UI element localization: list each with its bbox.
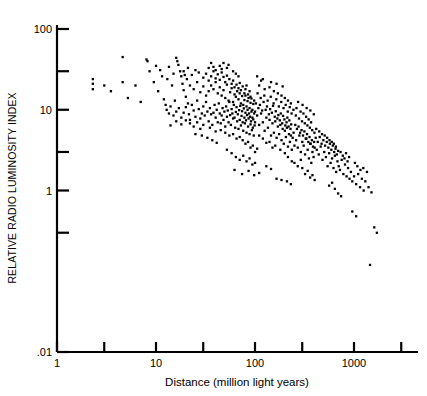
data-point (328, 185, 330, 187)
data-point (283, 118, 285, 120)
data-point (328, 152, 330, 154)
data-point (213, 104, 215, 106)
data-point (277, 92, 279, 94)
data-point (245, 132, 247, 134)
data-point (354, 162, 356, 164)
data-point (248, 107, 250, 109)
data-point (290, 102, 292, 104)
data-point (306, 133, 308, 135)
data-point (230, 87, 232, 89)
data-point (224, 125, 226, 127)
data-point (297, 146, 299, 148)
data-point (275, 83, 277, 85)
data-point (241, 95, 243, 97)
data-point (253, 134, 255, 136)
data-point (193, 109, 195, 111)
data-point (279, 149, 281, 151)
data-point (240, 124, 242, 126)
data-point (235, 111, 237, 113)
x-tick-label: 10 (150, 357, 162, 369)
data-point (239, 136, 241, 138)
data-point (343, 157, 345, 159)
data-point (210, 75, 212, 77)
data-point (251, 163, 253, 165)
data-point (227, 99, 229, 101)
data-point (202, 85, 204, 87)
data-point (335, 145, 337, 147)
data-point (351, 180, 353, 182)
data-point (243, 99, 245, 101)
data-point (209, 127, 211, 129)
data-point (221, 114, 223, 116)
data-point (277, 125, 279, 127)
data-point (305, 137, 307, 139)
data-point (274, 116, 276, 118)
data-point (275, 98, 277, 100)
data-point (244, 88, 246, 90)
data-point (175, 120, 177, 122)
data-point (212, 88, 214, 90)
scatter-plot-figure: 1101001000 100101.01 Distance (million l… (0, 0, 427, 396)
data-point (362, 167, 364, 169)
data-point (122, 81, 124, 83)
data-point (284, 130, 286, 132)
data-point (186, 78, 188, 80)
data-point (307, 141, 309, 143)
data-point (191, 104, 193, 106)
data-point (273, 90, 275, 92)
data-point (233, 86, 235, 88)
data-point (233, 104, 235, 106)
data-point (244, 94, 246, 96)
data-point (235, 156, 237, 158)
data-point (219, 86, 221, 88)
data-point (206, 110, 208, 112)
data-point (250, 120, 252, 122)
data-point (222, 62, 224, 64)
data-point (224, 132, 226, 134)
data-point (270, 168, 272, 170)
data-point (253, 124, 255, 126)
data-point (280, 139, 282, 141)
data-point (334, 148, 336, 150)
data-point (298, 134, 300, 136)
data-point (242, 85, 244, 87)
data-point (185, 106, 187, 108)
data-point (242, 155, 244, 157)
data-point (345, 152, 347, 154)
data-point (321, 133, 323, 135)
data-point (323, 151, 325, 153)
data-point (227, 121, 229, 123)
data-point (285, 104, 287, 106)
data-point (263, 94, 265, 96)
data-point (148, 70, 150, 72)
data-point (226, 67, 228, 69)
data-point (279, 119, 281, 121)
data-point (248, 112, 250, 114)
data-point (362, 189, 364, 191)
data-point (231, 112, 233, 114)
data-point (201, 112, 203, 114)
data-point (189, 84, 191, 86)
data-point (92, 78, 94, 80)
data-point (289, 106, 291, 108)
data-point (236, 90, 238, 92)
data-point (232, 70, 234, 72)
data-point (205, 101, 207, 103)
data-point (308, 136, 310, 138)
data-point (315, 137, 317, 139)
data-point (339, 151, 341, 153)
data-point (188, 113, 190, 115)
data-point (254, 110, 256, 112)
data-point (314, 179, 316, 181)
data-point (345, 175, 347, 177)
data-point (270, 81, 272, 83)
data-point (272, 105, 274, 107)
data-point (258, 134, 260, 136)
data-point (310, 162, 312, 164)
data-point (266, 105, 268, 107)
plot-canvas: 1101001000 100101.01 Distance (million l… (0, 0, 427, 396)
data-point (336, 153, 338, 155)
data-point (246, 100, 248, 102)
data-point (312, 145, 314, 147)
data-point (347, 167, 349, 169)
